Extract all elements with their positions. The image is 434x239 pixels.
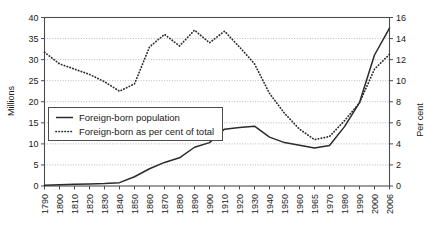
y-axis-left-tick-label: 15 bbox=[28, 118, 38, 128]
x-axis-tick-label: 1800 bbox=[55, 194, 65, 214]
x-axis-tick-label: 1970 bbox=[325, 194, 335, 214]
y-axis-left-tick-label: 5 bbox=[33, 160, 38, 170]
y-axis-right-tick-label: 10 bbox=[396, 76, 406, 86]
y-axis-right-tick-label: 2 bbox=[396, 160, 401, 170]
x-axis-tick-label: 1870 bbox=[160, 194, 170, 214]
x-axis-tick-label: 1930 bbox=[250, 194, 260, 214]
chart-container: 0510152025303540 0246810121416 179018001… bbox=[0, 0, 434, 239]
x-axis-tick-label: 1900 bbox=[205, 194, 215, 214]
x-axis-tick-label: 1990 bbox=[355, 194, 365, 214]
y-axis-right-tick-label: 14 bbox=[396, 34, 406, 44]
x-axis-tick-label: 1890 bbox=[190, 194, 200, 214]
gridlines bbox=[45, 39, 390, 165]
y-axis-right-tick-label: 16 bbox=[396, 13, 406, 23]
y-axis-right-title: Per cent bbox=[415, 103, 425, 137]
x-axis-tick-label: 1880 bbox=[175, 194, 185, 214]
y-axis-left-tick-label: 30 bbox=[28, 55, 38, 65]
y-axis-left-title: Millions bbox=[6, 86, 16, 117]
x-axis-tick-label: 1860 bbox=[145, 194, 155, 214]
series-foreign-born-population bbox=[45, 28, 390, 185]
x-axis-tick-label: 1790 bbox=[40, 194, 50, 214]
x-axis-tick-label: 1920 bbox=[235, 194, 245, 214]
x-axis-tick-label: 1820 bbox=[85, 194, 95, 214]
x-axis-tick-label: 1910 bbox=[220, 194, 230, 214]
chart-legend: Foreign-born population Foreign-born as … bbox=[49, 108, 223, 141]
line-chart: 0510152025303540 0246810121416 179018001… bbox=[0, 0, 434, 239]
y-axis-right-tick-label: 12 bbox=[396, 55, 406, 65]
legend-label-percent: Foreign-born as per cent of total bbox=[79, 126, 214, 137]
y-axis-right-tick-label: 8 bbox=[396, 97, 401, 107]
y-axis-left-ticks: 0510152025303540 bbox=[28, 13, 44, 192]
y-axis-right-tick-label: 0 bbox=[396, 181, 401, 191]
x-axis-tick-label: 1810 bbox=[70, 194, 80, 214]
y-axis-left-tick-label: 10 bbox=[28, 139, 38, 149]
x-axis-ticks: 1790180018101820183018401850186018701880… bbox=[40, 186, 395, 214]
x-axis-tick-label: 1830 bbox=[100, 194, 110, 214]
y-axis-right-tick-label: 6 bbox=[396, 118, 401, 128]
x-axis-tick-label: 1840 bbox=[115, 194, 125, 214]
y-axis-right-tick-label: 4 bbox=[396, 139, 401, 149]
x-axis-tick-label: 1850 bbox=[130, 194, 140, 214]
y-axis-left-tick-label: 35 bbox=[28, 34, 38, 44]
y-axis-left-tick-label: 0 bbox=[33, 181, 38, 191]
y-axis-left-tick-label: 40 bbox=[28, 13, 38, 23]
y-axis-left-tick-label: 25 bbox=[28, 76, 38, 86]
x-axis-tick-label: 1950 bbox=[280, 194, 290, 214]
x-axis-tick-label: 1965 bbox=[310, 194, 320, 214]
x-axis-tick-label: 1940 bbox=[265, 194, 275, 214]
y-axis-left-tick-label: 20 bbox=[28, 97, 38, 107]
x-axis-tick-label: 1960 bbox=[295, 194, 305, 214]
y-axis-right-ticks: 0246810121416 bbox=[390, 13, 407, 192]
x-axis-tick-label: 2006 bbox=[385, 194, 395, 214]
legend-label-population: Foreign-born population bbox=[79, 112, 180, 123]
x-axis-tick-label: 1980 bbox=[340, 194, 350, 214]
x-axis-tick-label: 2000 bbox=[370, 194, 380, 214]
